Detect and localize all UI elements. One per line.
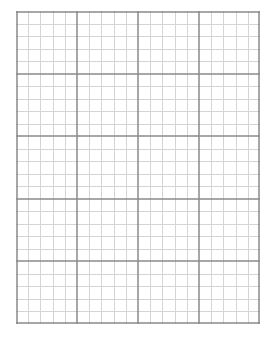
grid-lines <box>16 11 260 324</box>
